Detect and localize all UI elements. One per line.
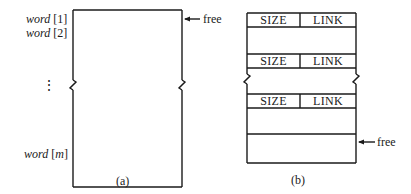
size-field-3: SIZE bbox=[247, 95, 300, 108]
link-field-2: LINK bbox=[300, 55, 356, 68]
word-1-label: word [1] bbox=[26, 13, 67, 25]
caption-b: (b) bbox=[291, 174, 305, 186]
word-m-label: word [m] bbox=[24, 148, 68, 160]
word-name: word bbox=[26, 12, 50, 26]
ellipsis-vertical: ⋮ bbox=[42, 80, 56, 92]
free-label-b: free bbox=[377, 136, 396, 148]
word-name: word bbox=[26, 26, 50, 40]
free-pointer-arrow-b bbox=[358, 140, 375, 145]
free-label-a: free bbox=[203, 13, 222, 25]
free-pointer-arrow-a bbox=[184, 17, 200, 22]
word-name: word bbox=[24, 147, 48, 161]
caption-a: (a) bbox=[116, 175, 129, 187]
memory-array-box-a bbox=[70, 10, 185, 187]
free-list-box-b bbox=[244, 13, 359, 163]
size-field-1: SIZE bbox=[247, 14, 300, 27]
word-2-label: word [2] bbox=[26, 27, 67, 39]
word-index: m bbox=[55, 147, 64, 161]
size-field-2: SIZE bbox=[247, 55, 300, 68]
link-field-3: LINK bbox=[300, 95, 356, 108]
link-field-1: LINK bbox=[300, 14, 356, 27]
